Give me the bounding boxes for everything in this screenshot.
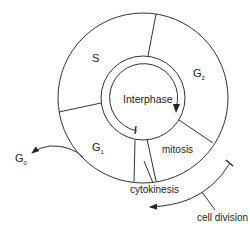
interphase-arc-end-tick: [135, 126, 136, 134]
cell-cycle-diagram: Interphase S G2 mitosis cytokinesis G1 G…: [0, 0, 250, 230]
phase-label-s: S: [92, 52, 99, 64]
phase-label-mitosis: mitosis: [162, 144, 193, 155]
cytokinesis-leader: [144, 161, 153, 183]
cell-division-leader: [202, 192, 215, 210]
divider-s-g2: [148, 14, 156, 56]
center-label: Interphase: [123, 93, 173, 105]
g0-exit-arrow: [32, 146, 83, 157]
divider-g2-mitosis: [179, 120, 213, 143]
divider-cytokinesis-mitosis: [147, 139, 156, 181]
cell-division-start-tick: [226, 160, 233, 166]
exit-state-label-g0: G0: [15, 152, 28, 166]
divider-g1-cytokinesis: [134, 140, 135, 182]
phase-label-cytokinesis: cytokinesis: [130, 184, 179, 195]
interphase-arrow-icon: [173, 104, 180, 113]
phase-label-g1: G1: [92, 141, 105, 155]
annotation-cell-division: cell division: [197, 212, 248, 223]
divider-s-g1: [59, 103, 101, 112]
phase-label-g2: G2: [193, 67, 206, 81]
